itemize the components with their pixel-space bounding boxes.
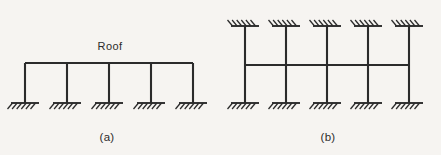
- fixed-support-ground: [351, 103, 383, 109]
- hatch-stroke: [176, 103, 181, 109]
- hatch-stroke: [392, 103, 397, 109]
- fixed-support-ceiling: [310, 20, 342, 26]
- fixed-support-ground: [269, 103, 301, 109]
- fixed-support-ground: [134, 103, 166, 109]
- fixed-support-ceiling: [269, 20, 301, 26]
- hatch-stroke: [351, 20, 356, 26]
- hatch-stroke: [310, 20, 315, 26]
- fixed-support-ground: [8, 103, 40, 109]
- fixed-support-ceiling: [228, 20, 260, 26]
- fixed-support-ceiling: [392, 20, 424, 26]
- panel-a: [8, 63, 208, 109]
- figure-canvas: Roof(a)(b): [0, 0, 441, 155]
- hatch-stroke: [310, 103, 315, 109]
- fixed-support-ground: [176, 103, 208, 109]
- hatch-stroke: [392, 20, 397, 26]
- hatch-stroke: [50, 103, 55, 109]
- figure-labels: Roof(a)(b): [98, 40, 336, 143]
- hatch-stroke: [92, 103, 97, 109]
- hatch-stroke: [8, 103, 13, 109]
- beam-label: Roof: [98, 40, 123, 52]
- panel-caption-b: (b): [321, 131, 336, 143]
- fixed-support-ground: [228, 103, 260, 109]
- fixed-support-ground: [92, 103, 124, 109]
- fixed-support-ceiling: [351, 20, 383, 26]
- panel-caption-a: (a): [100, 131, 115, 143]
- hatch-stroke: [351, 103, 356, 109]
- fixed-support-ground: [50, 103, 82, 109]
- hatch-stroke: [269, 103, 274, 109]
- hatch-stroke: [228, 103, 233, 109]
- fixed-support-ground: [310, 103, 342, 109]
- hatch-stroke: [134, 103, 139, 109]
- hatch-stroke: [228, 20, 233, 26]
- structural-frames-figure: Roof(a)(b): [0, 0, 441, 155]
- panel-b: [228, 20, 424, 109]
- fixed-support-ground: [392, 103, 424, 109]
- hatch-stroke: [269, 20, 274, 26]
